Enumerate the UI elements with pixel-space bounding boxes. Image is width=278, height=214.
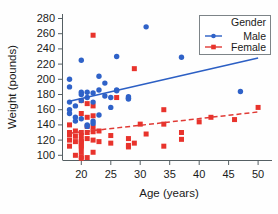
data-point-female [79, 150, 84, 155]
data-point-female [85, 101, 90, 106]
legend[interactable]: Gender Male Female [200, 16, 271, 55]
x-tick-label: 30 [134, 168, 146, 180]
chart-canvas: 280 260 240 220 200 180 160 140 120 100 … [0, 0, 278, 214]
data-point-female [108, 141, 113, 146]
data-point-male [126, 96, 131, 101]
y-tick-label: 160 [37, 103, 55, 115]
x-tick-label: 20 [75, 168, 87, 180]
data-point-female [67, 144, 72, 149]
data-point-male [143, 24, 148, 29]
y-tick-label: 120 [37, 134, 55, 146]
data-point-female [256, 105, 261, 110]
data-point-male [108, 105, 113, 110]
data-point-female [73, 153, 78, 158]
y-tick-label: 220 [37, 58, 55, 70]
y-tick-label: 140 [37, 118, 55, 130]
data-point-female [126, 136, 131, 141]
data-point-male [114, 54, 119, 59]
legend-female-label: Female [231, 41, 266, 53]
data-point-male [79, 116, 84, 121]
data-point-male [84, 90, 89, 95]
data-point-male [96, 74, 101, 79]
data-point-female [79, 145, 84, 150]
y-tick-label: 180 [37, 88, 55, 100]
data-point-female [179, 137, 184, 142]
data-point-male [73, 115, 78, 120]
y-tick-label: 100 [37, 149, 55, 161]
data-point-female [126, 144, 131, 149]
data-point-male [67, 84, 72, 89]
data-point-female [73, 139, 78, 144]
data-point-male [108, 95, 113, 100]
data-point-female [96, 128, 101, 133]
data-point-male [96, 112, 101, 117]
legend-title: Gender [231, 16, 267, 28]
y-tick-label: 200 [37, 73, 55, 85]
data-point-male [90, 99, 95, 104]
data-point-male [79, 58, 84, 63]
data-point-female [79, 156, 84, 161]
data-point-male [79, 92, 84, 97]
data-point-male [84, 124, 89, 129]
scatter-plot-figure: 280 260 240 220 200 180 160 140 120 100 … [0, 0, 278, 214]
data-point-female [91, 150, 96, 155]
data-point-female [144, 132, 149, 137]
x-axis-title: Age (years) [139, 187, 199, 199]
data-point-female [79, 133, 84, 138]
data-point-female [197, 119, 202, 124]
data-point-female [161, 107, 166, 112]
data-point-female [114, 95, 119, 100]
data-point-male [67, 111, 72, 116]
data-point-female [96, 139, 101, 144]
data-point-male [96, 87, 101, 92]
x-tick-label: 50 [252, 168, 264, 180]
legend-female-marker-icon [211, 45, 216, 50]
data-point-male [73, 103, 78, 108]
y-tick-label: 240 [37, 42, 55, 54]
data-point-female [85, 115, 90, 120]
data-point-male [179, 55, 184, 60]
data-point-female [138, 122, 143, 127]
data-point-female [179, 130, 184, 135]
data-point-female [132, 141, 137, 146]
y-tick-label: 260 [37, 27, 55, 39]
data-point-female [232, 117, 237, 122]
x-tick-label: 25 [105, 168, 117, 180]
data-point-male [102, 80, 107, 85]
x-tick-label: 40 [193, 168, 205, 180]
data-point-female [79, 111, 84, 116]
data-point-male [90, 121, 95, 126]
data-point-female [161, 144, 166, 149]
data-point-female [91, 138, 96, 143]
data-point-female [85, 136, 90, 141]
data-point-female [73, 134, 78, 139]
legend-male-marker-icon [211, 34, 216, 39]
y-tick-label: 280 [37, 12, 55, 24]
data-point-male [238, 89, 243, 94]
data-point-female [67, 122, 72, 127]
data-point-male [67, 77, 72, 82]
data-point-female [91, 113, 96, 118]
x-tick-label: 35 [164, 168, 176, 180]
data-point-female [108, 133, 113, 138]
x-tick-label: 45 [222, 168, 234, 180]
data-point-female [132, 66, 137, 71]
data-point-female [67, 138, 72, 143]
data-point-female [91, 33, 96, 38]
data-point-female [85, 155, 90, 160]
y-axis-title: Weight (pounds) [6, 45, 18, 129]
